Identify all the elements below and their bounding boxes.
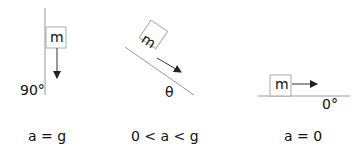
horizontal-panel bbox=[258, 75, 350, 96]
angle-label: θ bbox=[165, 84, 174, 100]
acceleration-arrow-icon bbox=[157, 58, 181, 72]
angle-label: 0° bbox=[322, 96, 338, 112]
equation-label: a = g bbox=[28, 128, 66, 144]
equation-label: 0 < a < g bbox=[131, 128, 199, 144]
angle-label: 90° bbox=[20, 82, 45, 98]
incline-surface bbox=[125, 47, 194, 95]
equation-label: a = 0 bbox=[284, 128, 322, 144]
vertical-panel bbox=[45, 8, 66, 95]
mass-label: m bbox=[275, 76, 289, 92]
incline-panel bbox=[125, 20, 194, 95]
mass-label: m bbox=[50, 29, 64, 45]
